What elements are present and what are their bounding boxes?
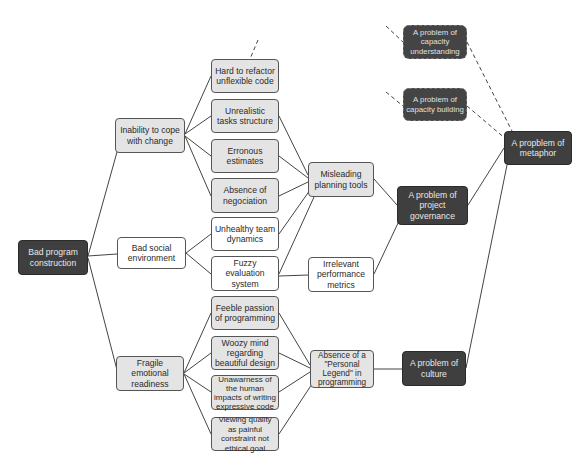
node-absence-of-negociation: Absence of negociation [211, 178, 279, 213]
node-fuzzy-evaluation-system: Fuzzy evaluation system [211, 256, 279, 291]
node-capacity-building: A problem of capacity building [403, 88, 467, 121]
node-inability-to-cope: Inability to cope with change [115, 118, 185, 153]
node-label: Fragile emotional readiness [119, 358, 181, 389]
root-cause-diagram: Bad program construction Inability to co… [0, 0, 587, 468]
node-unawarness-human-impacts: Unawarness of the human impacts of writi… [211, 375, 279, 410]
node-label: Misleading planning tools [311, 169, 371, 189]
node-label: Erronous estimates [214, 146, 276, 166]
node-viewing-quality: Viewing quality as painful constraint no… [211, 417, 279, 451]
node-problem-of-metaphor: A propblem of metaphor [504, 131, 572, 165]
node-label: Viewing quality as painful constraint no… [214, 415, 276, 453]
node-label: A propblem of metaphor [507, 138, 569, 158]
node-label: Hard to refactor unflexible code [214, 66, 276, 86]
node-unhealthy-team-dynamics: Unhealthy team dynamics [211, 217, 279, 251]
node-label: A problem of project governance [400, 190, 465, 221]
node-unrealistic-tasks: Unrealistic tasks structure [211, 99, 279, 133]
node-hard-to-refactor: Hard to refactor unflexible code [211, 59, 279, 93]
node-erroneous-estimates: Erronous estimates [211, 139, 279, 173]
node-irrelevant-performance-metrics: Irrelevant performance metrics [308, 257, 374, 292]
node-label: Unhealthy team dynamics [214, 224, 276, 244]
node-label: Woozy mind regarding beautiful design [214, 338, 276, 369]
node-project-governance: A problem of project governance [397, 186, 468, 225]
node-label: Bad social environment [120, 243, 183, 263]
connector-lines [0, 0, 587, 468]
node-feeble-passion: Feeble passion of programming [211, 296, 279, 330]
node-woozy-mind: Woozy mind regarding beautiful design [211, 336, 279, 370]
node-label: Inability to cope with change [118, 125, 182, 145]
node-label: Feeble passion of programming [214, 303, 276, 323]
node-absence-personal-legend: Absence of a "Personal Legend" in progra… [310, 350, 374, 388]
node-label: Fuzzy evaluation system [214, 258, 276, 289]
node-problem-of-culture: A problem of culture [402, 351, 466, 386]
node-bad-program-construction: Bad program construction [18, 240, 88, 275]
node-label: Unawarness of the human impacts of writi… [214, 375, 276, 411]
node-bad-social-environment: Bad social environment [117, 237, 186, 269]
node-label: Bad program construction [21, 247, 85, 267]
node-label: Absence of negociation [214, 185, 276, 205]
node-label: A problem of capacity understanding [406, 28, 464, 56]
node-label: A problem of culture [405, 358, 463, 378]
node-fragile-emotional-readiness: Fragile emotional readiness [116, 356, 184, 391]
node-label: A problem of capacity building [406, 95, 464, 113]
node-label: Absence of a "Personal Legend" in progra… [313, 351, 371, 388]
node-capacity-understanding: A problem of capacity understanding [403, 25, 467, 59]
node-label: Irrelevant performance metrics [311, 259, 371, 290]
node-label: Unrealistic tasks structure [214, 106, 276, 126]
node-misleading-planning-tools: Misleading planning tools [308, 162, 374, 197]
